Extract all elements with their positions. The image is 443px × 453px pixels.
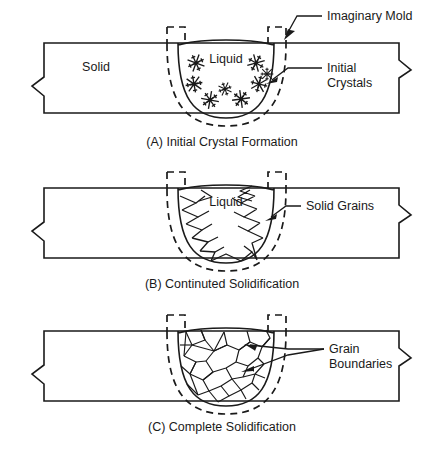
caption-a: (A) Initial Crystal Formation (146, 135, 297, 149)
crystal-icon (200, 90, 221, 111)
panel-b: Liquid Solid Grains (B) Continuted Solid… (32, 172, 411, 291)
imaginary-mold-tab-right-b (268, 172, 286, 189)
solid-grains-label-b: Solid Grains (306, 199, 374, 213)
initial-crystals-leader-a (272, 68, 322, 80)
grain-boundaries-label-line2: Boundaries (329, 357, 392, 371)
caption-c: (C) Complete Solidification (148, 420, 296, 434)
imaginary-mold-tab-left-a (167, 27, 185, 44)
crystal-icon (231, 89, 251, 109)
initial-crystals-label-line1: Initial (327, 61, 356, 75)
panel-a: Solid Liquid Imaginary Mold Initial Crys… (32, 9, 412, 149)
imaginary-mold-tab-left-b (167, 172, 185, 189)
crystal-icon (215, 79, 234, 98)
initial-crystals-label-line2: Crystals (327, 76, 372, 90)
imaginary-mold-label-a: Imaginary Mold (327, 9, 412, 23)
crystal-icon (184, 51, 207, 74)
imaginary-mold-tab-right-c (268, 315, 286, 332)
solidification-figure: Solid Liquid Imaginary Mold Initial Crys… (0, 0, 443, 453)
solid-label-a: Solid (82, 60, 110, 74)
imaginary-mold-tab-left-c (167, 315, 185, 332)
imaginary-mold-tab-right-a (268, 27, 286, 44)
crystal-icon (247, 72, 272, 97)
caption-b: (B) Continuted Solidification (145, 277, 299, 291)
liquid-label-a: Liquid (209, 52, 242, 66)
grain-network-c (180, 330, 270, 402)
liquid-label-b: Liquid (209, 195, 242, 209)
initial-crystals-arrowhead-a (266, 77, 278, 84)
grain-boundaries-label-line1: Grain (329, 342, 360, 356)
panel-c: Grain Boundaries (C) Complete Solidifica… (32, 315, 411, 434)
